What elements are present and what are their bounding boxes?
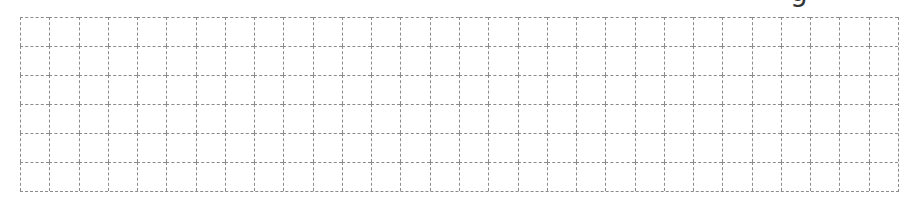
- grid-cell: [693, 75, 722, 104]
- grid-cell: [137, 162, 166, 191]
- grid-cell: [664, 133, 693, 162]
- grid-cell: [810, 162, 839, 191]
- grid-cell: [635, 162, 664, 191]
- grid-cell: [20, 17, 49, 46]
- grid-cell: [869, 75, 898, 104]
- grid-cell: [693, 104, 722, 133]
- grid-cell: [196, 75, 225, 104]
- grid-cell: [196, 133, 225, 162]
- grid-cell: [342, 46, 371, 75]
- grid-cell: [254, 104, 283, 133]
- grid-cell: [79, 46, 108, 75]
- grid-cell: [166, 17, 195, 46]
- grid-cell: [108, 75, 137, 104]
- grid-cell: [108, 133, 137, 162]
- grid-cell: [400, 75, 429, 104]
- grid-cell: [196, 46, 225, 75]
- grid-cell: [605, 133, 634, 162]
- grid-cell: [488, 17, 517, 46]
- grid-cell: [225, 75, 254, 104]
- grid-cell: [137, 75, 166, 104]
- grid-cell: [518, 75, 547, 104]
- grid-cell: [839, 17, 868, 46]
- grid-cell: [196, 17, 225, 46]
- grid-cell: [693, 17, 722, 46]
- grid-cell: [635, 75, 664, 104]
- grid-cell: [430, 104, 459, 133]
- grid-cell: [49, 46, 78, 75]
- grid-cell: [869, 17, 898, 46]
- grid-cell: [400, 104, 429, 133]
- grid-cell: [371, 17, 400, 46]
- grid-cell: [635, 17, 664, 46]
- grid-cell: [488, 162, 517, 191]
- grid-cell: [400, 133, 429, 162]
- grid-cell: [693, 162, 722, 191]
- grid-cell: [225, 162, 254, 191]
- grid-cell: [225, 104, 254, 133]
- grid-cell: [664, 46, 693, 75]
- grid-cell: [605, 162, 634, 191]
- grid-cell: [635, 104, 664, 133]
- grid-cell: [166, 75, 195, 104]
- grid-cell: [605, 17, 634, 46]
- grid-cell: [108, 104, 137, 133]
- grid-cell: [313, 17, 342, 46]
- grid-cell: [20, 162, 49, 191]
- grid-cell: [430, 75, 459, 104]
- grid-cell: [781, 17, 810, 46]
- grid-cell: [752, 104, 781, 133]
- grid-cell: [254, 17, 283, 46]
- grid-cell: [225, 133, 254, 162]
- grid-cell: [371, 46, 400, 75]
- grid-cell: [79, 75, 108, 104]
- grid-cell: [547, 133, 576, 162]
- grid-cell: [254, 133, 283, 162]
- grid-cell: [283, 17, 312, 46]
- grid-cell: [49, 162, 78, 191]
- grid-cell: [722, 133, 751, 162]
- grid-cell: [430, 17, 459, 46]
- grid-cell: [20, 46, 49, 75]
- grid-cell: [781, 46, 810, 75]
- grid-cell: [79, 17, 108, 46]
- grid-cell: [839, 162, 868, 191]
- grid-cell: [430, 162, 459, 191]
- grid-cell: [342, 104, 371, 133]
- grid-cell: [459, 133, 488, 162]
- grid-cell: [79, 133, 108, 162]
- grid-cell: [839, 46, 868, 75]
- grid-cell: [283, 162, 312, 191]
- grid-cell: [20, 75, 49, 104]
- grid-cell: [225, 17, 254, 46]
- grid-cell: [635, 133, 664, 162]
- grid-cell: [605, 75, 634, 104]
- grid-cell: [137, 17, 166, 46]
- grid-cell: [313, 46, 342, 75]
- grid-cell: [196, 104, 225, 133]
- grid-cell: [371, 133, 400, 162]
- grid-cell: [722, 162, 751, 191]
- grid-cell: [781, 133, 810, 162]
- grid-cell: [752, 46, 781, 75]
- grid-cell: [459, 75, 488, 104]
- grid-cell: [137, 46, 166, 75]
- blank-grid: [20, 17, 899, 192]
- grid-cell: [518, 46, 547, 75]
- grid-cell: [781, 104, 810, 133]
- grid-cell: [576, 104, 605, 133]
- grid-cell: [518, 104, 547, 133]
- grid-cell: [79, 162, 108, 191]
- grid-cell: [576, 75, 605, 104]
- grid-cell: [283, 133, 312, 162]
- grid-cell: [869, 104, 898, 133]
- grid-cell: [283, 104, 312, 133]
- grid-cell: [605, 104, 634, 133]
- grid-cell: [752, 133, 781, 162]
- grid-cell: [547, 46, 576, 75]
- grid-cell: [400, 17, 429, 46]
- grid-cell: [547, 17, 576, 46]
- grid-cell: [430, 46, 459, 75]
- grid-cell: [400, 162, 429, 191]
- grid-cell: [166, 104, 195, 133]
